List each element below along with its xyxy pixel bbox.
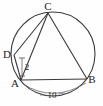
geometry-canvas: C D A B 2 10: [0, 0, 103, 106]
segment-dc: [14, 13, 48, 55]
segment-ab: [21, 79, 87, 80]
vertex-label-c: C: [44, 0, 51, 12]
vertex-label-a: A: [11, 77, 19, 89]
geometry-figure: C D A B 2 10: [0, 0, 103, 106]
vertex-label-d: D: [3, 48, 11, 60]
vertex-label-b: B: [88, 73, 95, 85]
measure-label-da: 2: [25, 62, 30, 72]
measure-label-ab: 10: [48, 90, 58, 100]
circumcircle: [11, 12, 95, 96]
